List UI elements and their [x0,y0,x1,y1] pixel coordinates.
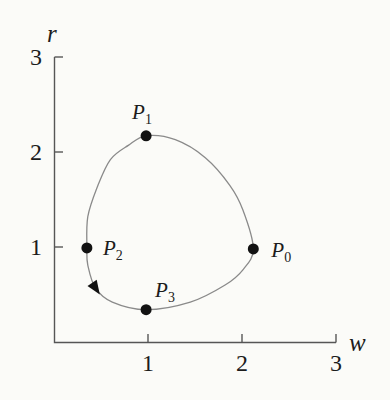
point-label-sub: 1 [145,112,152,127]
y-tick-label: 3 [30,44,42,70]
x-tick-label: 2 [236,350,248,376]
point-label-P2: P2 [102,236,123,263]
orbit-curve [87,136,254,310]
point-label-base: P [154,278,168,302]
point-label-base: P [270,238,284,262]
x-tick-label: 3 [330,350,342,376]
point-label-sub: 0 [284,250,291,265]
point-label-base: P [131,100,145,124]
orbit-point-P1 [141,130,152,141]
orbit-point-P0 [248,243,259,254]
orbit-point-P2 [81,242,92,253]
point-label-sub: 3 [168,290,175,305]
axes-lines [55,57,337,343]
point-label-P0: P0 [270,238,291,265]
phase-plane-figure: 123123rwP0P1P2P3 [0,0,390,400]
y-axis-label: r [47,20,57,47]
point-label-P1: P1 [131,100,152,127]
orbit-point-P3 [141,304,152,315]
point-label-sub: 2 [116,248,123,263]
y-tick-label: 1 [30,234,42,260]
x-tick-label: 1 [142,350,154,376]
y-tick-label: 2 [30,139,42,165]
x-axis-label: w [349,329,366,356]
phase-plot-svg: 123123rwP0P1P2P3 [0,0,390,400]
point-label-P3: P3 [154,278,175,305]
point-label-base: P [102,236,116,260]
